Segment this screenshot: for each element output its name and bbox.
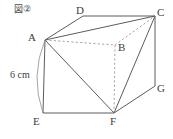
edge-F-C (114, 16, 155, 113)
vertex-label-F: F (110, 116, 116, 127)
vertex-label-E: E (33, 116, 40, 127)
vertex-label-D: D (76, 5, 84, 16)
figure-panel: 図② A B C D E F G 6 cm (0, 0, 173, 139)
edge-A-E (43, 40, 45, 113)
edge-A-C (45, 16, 155, 40)
edge-A-D (45, 16, 83, 40)
solid-edges-group (43, 16, 155, 113)
dimension-label-6cm: 6 cm (10, 70, 30, 80)
vertex-label-A: A (28, 32, 36, 43)
edge-A-F (45, 40, 114, 113)
edge-B-F-hidden (114, 45, 115, 113)
vertex-label-B: B (118, 42, 125, 53)
vertex-label-C: C (157, 7, 164, 18)
edge-A-B-hidden (45, 40, 115, 45)
figure-caption: 図② (14, 5, 31, 14)
vertex-label-G: G (157, 83, 165, 94)
